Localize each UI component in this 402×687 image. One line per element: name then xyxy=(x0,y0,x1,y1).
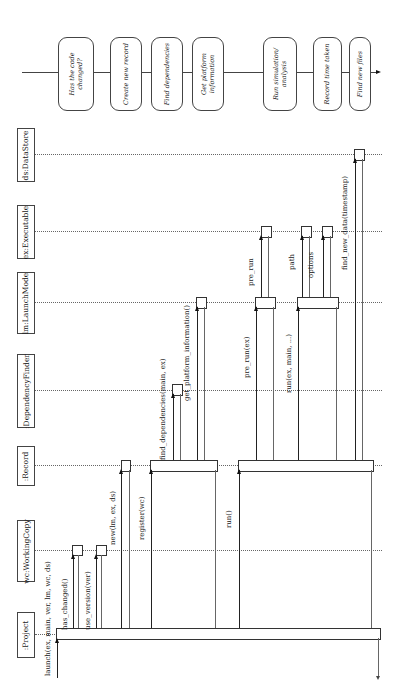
participant-workingcopy: wc:WorkingCopy xyxy=(17,520,35,582)
message-get-platform-information xyxy=(197,307,198,460)
participant-dependencyfinder: :DependencyFinder xyxy=(17,354,35,428)
return-has-changed xyxy=(78,555,79,628)
message-options xyxy=(323,236,324,297)
return-new xyxy=(129,470,130,628)
activation-record-run xyxy=(238,460,374,472)
return-pre-run xyxy=(268,236,269,297)
sequence-diagram: Has the code changed? Create new record … xyxy=(0,0,402,687)
message-pre-run xyxy=(261,236,262,297)
step-find-new-files: Find new files xyxy=(349,37,371,111)
message-find-new-data xyxy=(355,159,356,460)
participant-record: :Record xyxy=(17,446,35,486)
message-has-changed xyxy=(73,555,74,628)
message-label-new: new(lm, ex, ds) xyxy=(109,491,117,545)
return-pre-run-ex xyxy=(273,307,274,460)
message-label-use-version: use_version(ver) xyxy=(84,571,92,630)
message-label-options: options xyxy=(307,252,315,278)
message-launch xyxy=(57,643,58,678)
message-label-run: run() xyxy=(225,510,233,528)
message-label-has-changed: has_changed() xyxy=(61,579,69,630)
lifeline-workingcopy xyxy=(35,550,382,551)
step-run-simulation: Run simulation/ analysis xyxy=(263,37,297,111)
activation-ex-pre-run xyxy=(261,226,272,238)
message-use-version xyxy=(96,555,97,628)
return-run-ex-main xyxy=(336,307,337,460)
activation-project xyxy=(56,628,381,640)
arrow-head-icon xyxy=(195,306,199,311)
timeline-arrow-icon xyxy=(376,70,381,74)
participant-datastore: ds:DataStore xyxy=(17,128,35,182)
return-project xyxy=(378,638,379,678)
arrow-head-icon xyxy=(237,469,241,474)
message-label-register: register(wc) xyxy=(138,497,146,540)
arrow-head-icon xyxy=(296,306,300,311)
arrow-head-icon xyxy=(259,235,263,240)
lifeline-datastore xyxy=(35,154,382,155)
return-get-platform-information xyxy=(204,307,205,460)
message-label-get-platform-information: get_platform_information() xyxy=(183,305,191,401)
participant-executable: ex:Executable xyxy=(17,205,35,259)
message-run xyxy=(239,470,240,628)
arrow-head-icon xyxy=(254,306,258,311)
arrow-head-icon xyxy=(55,638,59,643)
arrow-head-icon xyxy=(119,469,123,474)
message-pre-run-ex xyxy=(256,307,257,460)
arrow-head-icon xyxy=(321,235,325,240)
activation-lm-run xyxy=(297,297,339,309)
arrow-head-icon xyxy=(300,235,304,240)
message-label-find-dependencies: find_dependencies(main, ex) xyxy=(159,359,167,461)
message-register xyxy=(151,470,152,628)
participant-project: :Project xyxy=(17,612,35,658)
return-options xyxy=(330,236,331,297)
message-label-run-ex-main: run(ex, main, ...) xyxy=(285,334,293,393)
arrow-head-icon xyxy=(71,554,75,559)
participant-launchmode: lm:LaunchMode xyxy=(17,272,35,334)
step-has-code-changed: Has the code changed? xyxy=(58,37,94,111)
message-label-pre-run-ex: pre_run(ex) xyxy=(243,337,251,378)
return-run xyxy=(371,470,372,628)
lifeline-dependencyfinder xyxy=(35,390,382,391)
message-label-path: path xyxy=(288,254,296,270)
arrow-head-icon xyxy=(171,393,175,398)
arrow-head-icon xyxy=(94,554,98,559)
arrow-down-icon xyxy=(376,676,380,680)
step-find-dependencies: Find dependencies xyxy=(151,37,183,111)
message-label-find-new-data: find_new_data(timestamp) xyxy=(341,176,349,270)
message-find-dependencies xyxy=(173,394,174,460)
message-new xyxy=(121,470,122,628)
return-use-version xyxy=(101,555,102,628)
message-path xyxy=(302,236,303,297)
return-register xyxy=(215,470,216,628)
return-find-new-data xyxy=(362,159,363,460)
arrow-head-icon xyxy=(353,158,357,163)
activation-record-register xyxy=(150,460,218,472)
step-record-time-taken: Record time taken xyxy=(313,37,342,111)
message-label-launch: launch(ex, main, ver, lm, wc, ds) xyxy=(44,561,52,676)
arrow-head-icon xyxy=(149,469,153,474)
message-run-ex-main xyxy=(298,307,299,460)
step-get-platform-information: Get platform information xyxy=(192,37,224,111)
step-create-new-record: Create new record xyxy=(110,37,142,111)
message-label-pre-run: pre_run xyxy=(247,258,255,286)
return-find-dependencies xyxy=(180,394,181,460)
